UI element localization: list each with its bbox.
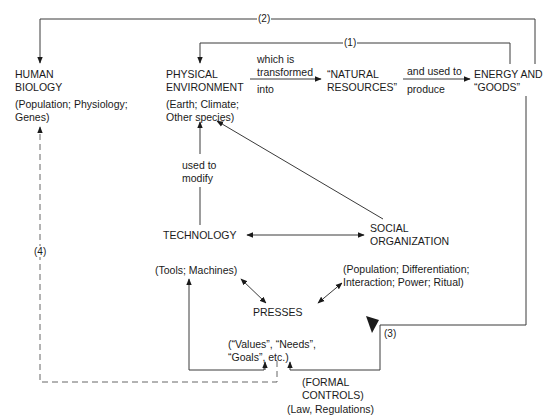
human-biology-detail-1: (Population; Physiology; — [15, 98, 128, 110]
natural-resources-line2: RESOURCES” — [327, 81, 397, 93]
formal-controls-line3: (Law, Regulations) — [287, 403, 374, 416]
human-biology-detail-2: Genes) — [15, 111, 49, 123]
technology-presses-arrow — [241, 279, 266, 303]
modify-label-line2: modify — [182, 172, 213, 184]
social-organization-detail-1: (Population; Differentiation; — [343, 263, 469, 275]
node-physical-environment: PHYSICAL ENVIRONMENT (Earth; Climate; Ot… — [166, 68, 244, 123]
loop-3-chevron — [366, 316, 379, 333]
node-values: (“Values”, “Needs”, “Goals”, etc.) — [228, 338, 316, 363]
social-organization-detail-2: Interaction; Power; Ritual) — [343, 276, 464, 288]
transform-label-above: which is transformed — [257, 53, 313, 78]
natural-resources-line1: “NATURAL — [327, 68, 379, 80]
social-organization-detail: (Population; Differentiation; Interactio… — [343, 263, 469, 288]
node-technology: TECHNOLOGY — [163, 229, 237, 242]
modify-label: used to modify — [182, 159, 216, 184]
human-biology-title-2: BIOLOGY — [15, 81, 62, 93]
node-human-biology: HUMAN BIOLOGY (Population; Physiology; G… — [15, 68, 128, 123]
loop-1-label: (1) — [343, 37, 357, 48]
physical-environment-title-1: PHYSICAL — [166, 68, 218, 80]
energy-goods-line1: ENERGY AND — [474, 68, 543, 80]
modify-label-line1: used to — [182, 159, 216, 171]
social-to-environment-arrow — [217, 121, 383, 219]
transform-label-below: into — [257, 83, 274, 96]
transform-label-line2: transformed — [257, 66, 313, 78]
node-presses: PRESSES — [253, 306, 303, 319]
node-formal-controls: (FORMAL CONTROLS) (Law, Regulations) — [287, 376, 374, 416]
loop-4-label: (4) — [33, 246, 47, 257]
formal-controls-line1: (FORMAL — [287, 376, 349, 388]
physical-environment-detail-2: Other species) — [166, 111, 234, 123]
loop-3-label: (3) — [383, 328, 397, 339]
ecosystem-diagram: (2) (1) (3) (4) HUMAN BIOLOGY (Populatio… — [0, 0, 555, 416]
physical-environment-title-2: ENVIRONMENT — [166, 81, 244, 93]
values-line2: “Goals”, etc.) — [228, 351, 289, 363]
physical-environment-detail-1: (Earth; Climate; — [166, 98, 239, 110]
social-organization-title-1: SOCIAL — [370, 222, 409, 234]
values-line1: (“Values”, “Needs”, — [228, 338, 316, 350]
loop-2-label: (2) — [257, 13, 271, 24]
technology-detail: (Tools; Machines) — [155, 264, 237, 277]
transform-label-line1: which is — [257, 53, 294, 65]
social-organization-title-2: ORGANIZATION — [370, 235, 449, 247]
social-presses-arrow — [318, 283, 342, 303]
produce-label-above: and used to — [407, 65, 462, 78]
formal-controls-line2: CONTROLS) — [287, 389, 364, 401]
energy-goods-line2: “GOODS” — [474, 81, 520, 93]
node-social-organization: SOCIAL ORGANIZATION — [370, 222, 449, 247]
produce-label-below: produce — [407, 83, 445, 96]
node-natural-resources: “NATURAL RESOURCES” — [327, 68, 397, 93]
node-energy-goods: ENERGY AND “GOODS” — [474, 68, 543, 93]
human-biology-title-1: HUMAN — [15, 68, 54, 80]
